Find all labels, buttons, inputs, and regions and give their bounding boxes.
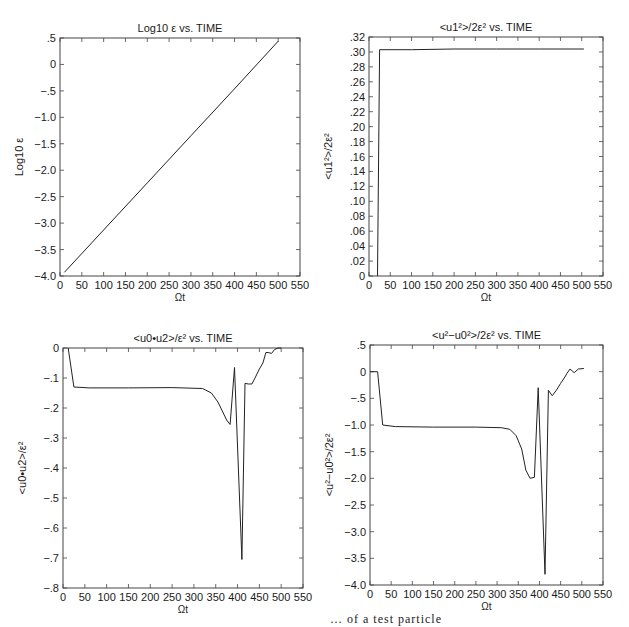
x-axis-label: Ωt xyxy=(178,604,188,615)
x-tick-label: 50 xyxy=(79,591,91,603)
y-tick-label: .14 xyxy=(350,165,365,177)
x-tick-label: 400 xyxy=(530,279,548,291)
y-tick-label: −.5 xyxy=(350,392,366,404)
x-tick-label: 0 xyxy=(60,591,66,603)
x-tick-label: 550 xyxy=(594,279,612,291)
x-tick-label: 200 xyxy=(141,591,159,603)
y-tick-label: −3.5 xyxy=(344,552,366,564)
x-tick-label: 150 xyxy=(424,279,442,291)
y-tick-label: .26 xyxy=(350,76,365,88)
x-tick-label: 450 xyxy=(551,588,569,600)
x-tick-label: 150 xyxy=(116,279,134,291)
plot-frame xyxy=(63,348,303,588)
x-tick-label: 200 xyxy=(445,279,463,291)
x-tick-label: 350 xyxy=(509,279,527,291)
plot-frame xyxy=(370,345,603,585)
plot-frame xyxy=(60,38,300,276)
y-tick-label: −1.0 xyxy=(344,419,366,431)
y-tick-label: .16 xyxy=(350,151,365,163)
y-axis-label: Log10 ε xyxy=(13,138,25,177)
x-tick-label: 300 xyxy=(487,279,505,291)
y-tick-label: .18 xyxy=(350,136,365,148)
x-tick-label: 0 xyxy=(57,279,63,291)
y-tick-label: −2.0 xyxy=(34,164,56,176)
y-tick-label: −1.5 xyxy=(34,138,56,150)
x-tick-label: 50 xyxy=(385,588,397,600)
chart-u0u2: 050100150200250300350400450500550−.8−.7−… xyxy=(16,332,312,615)
x-tick-label: 400 xyxy=(530,588,548,600)
x-tick-label: 100 xyxy=(403,588,421,600)
y-tick-label: −.2 xyxy=(43,402,59,414)
x-tick-label: 100 xyxy=(402,279,420,291)
x-tick-label: 500 xyxy=(573,279,591,291)
x-tick-label: 250 xyxy=(163,591,181,603)
y-tick-label: .12 xyxy=(350,180,365,192)
y-tick-label: .10 xyxy=(350,195,365,207)
y-tick-label: −2.0 xyxy=(344,472,366,484)
figure-caption: … of a test particle xyxy=(330,612,442,627)
x-tick-label: 50 xyxy=(76,279,88,291)
y-tick-label: .30 xyxy=(350,46,365,58)
y-tick-label: −2.5 xyxy=(344,499,366,511)
y-tick-label: −3.5 xyxy=(34,244,56,256)
chart-log-eps: 050100150200250300350400450500550−4.0−3.… xyxy=(13,22,309,303)
data-line xyxy=(378,49,584,276)
y-axis-label: <u0•u2>/ε² xyxy=(16,441,28,494)
y-tick-label: −4.0 xyxy=(34,270,56,282)
y-tick-label: −4.0 xyxy=(344,579,366,591)
y-tick-label: −.7 xyxy=(43,552,59,564)
y-tick-label: 0 xyxy=(359,270,365,282)
x-tick-label: 300 xyxy=(488,588,506,600)
y-tick-label: −.4 xyxy=(43,462,59,474)
y-tick-label: −.8 xyxy=(43,582,59,594)
y-tick-label: .04 xyxy=(350,240,365,252)
y-tick-label: .32 xyxy=(350,31,365,43)
y-tick-label: .5 xyxy=(47,32,56,44)
x-tick-label: 250 xyxy=(160,279,178,291)
y-tick-label: −1.5 xyxy=(344,446,366,458)
chart-title: <u1²>/2ε² vs. TIME xyxy=(440,21,533,33)
chart-title: <u0•u2>/ε² vs. TIME xyxy=(133,332,232,344)
data-line xyxy=(64,41,278,272)
x-tick-label: 150 xyxy=(424,588,442,600)
chart-u1-energy: 0501001502002503003504004505005500.02.04… xyxy=(322,21,612,303)
y-tick-label: −3.0 xyxy=(344,526,366,538)
y-tick-label: .22 xyxy=(350,106,365,118)
y-axis-label: <u1²>/2ε² xyxy=(322,133,334,180)
x-tick-label: 200 xyxy=(446,588,464,600)
x-tick-label: 150 xyxy=(119,591,137,603)
x-tick-label: 0 xyxy=(367,588,373,600)
y-tick-label: 0 xyxy=(360,366,366,378)
x-tick-label: 50 xyxy=(384,279,396,291)
y-tick-label: 0 xyxy=(53,342,59,354)
x-tick-label: 450 xyxy=(551,279,569,291)
chart-title: Log10 ε vs. TIME xyxy=(138,22,223,34)
y-tick-label: −.5 xyxy=(43,492,59,504)
x-tick-label: 450 xyxy=(250,591,268,603)
y-tick-label: 0 xyxy=(50,58,56,70)
x-tick-label: 300 xyxy=(182,279,200,291)
x-tick-label: 550 xyxy=(294,591,312,603)
x-tick-label: 550 xyxy=(594,588,612,600)
x-tick-label: 550 xyxy=(291,279,309,291)
data-line xyxy=(68,348,281,560)
x-tick-label: 500 xyxy=(573,588,591,600)
x-tick-label: 250 xyxy=(467,588,485,600)
chart-grid: 050100150200250300350400450500550−4.0−3.… xyxy=(0,0,629,627)
x-axis-label: Ωt xyxy=(481,601,491,612)
chart-title: <u²−u0²>/2ε² vs. TIME xyxy=(432,329,541,341)
x-tick-label: 100 xyxy=(94,279,112,291)
y-tick-label: .06 xyxy=(350,225,365,237)
y-tick-label: −.1 xyxy=(43,372,59,384)
x-tick-label: 500 xyxy=(272,591,290,603)
x-axis-label: Ωt xyxy=(175,292,185,303)
x-tick-label: 350 xyxy=(204,279,222,291)
x-tick-label: 100 xyxy=(97,591,115,603)
chart-u2-u0sq: 050100150200250300350400450500550−4.0−3.… xyxy=(323,329,612,612)
y-tick-label: −3.0 xyxy=(34,217,56,229)
y-tick-label: .02 xyxy=(350,255,365,267)
x-tick-label: 0 xyxy=(366,279,372,291)
x-tick-label: 400 xyxy=(225,279,243,291)
y-tick-label: .08 xyxy=(350,210,365,222)
